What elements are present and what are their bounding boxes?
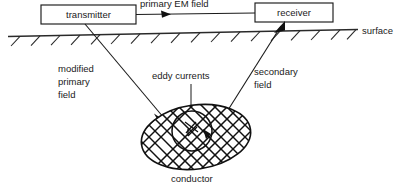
eddy-currents-label: eddy currents	[152, 70, 210, 81]
receiver-label: receiver	[277, 7, 311, 18]
conductor-label: conductor	[171, 173, 213, 184]
surface-hatching	[11, 30, 356, 46]
primary-em-field-arrowhead	[161, 11, 171, 18]
modified-primary-field-label-line3: field	[58, 89, 75, 100]
secondary-field-label-line1: secondary	[254, 66, 298, 77]
modified-primary-field-label-line2: primary	[58, 76, 90, 87]
receiver-node[interactable]: receiver	[255, 3, 333, 22]
modified-primary-field-label-line1: modified	[58, 63, 94, 74]
conductor-group: conductor	[120, 84, 334, 190]
primary-em-field-arrow-group: primary EM field	[136, 0, 255, 18]
surface-label: surface	[362, 25, 393, 36]
primary-em-field-line	[136, 13, 255, 15]
surface-line	[8, 30, 358, 37]
secondary-field-label-line2: field	[254, 79, 271, 90]
em-survey-diagram: surface transmitter receiver primary EM …	[0, 0, 395, 191]
diagram-canvas: surface transmitter receiver primary EM …	[0, 0, 395, 191]
transmitter-label: transmitter	[66, 9, 111, 20]
ground-surface-group: surface	[8, 25, 393, 47]
transmitter-node[interactable]: transmitter	[41, 5, 136, 24]
secondary-field-arrow-group: secondary field	[223, 21, 298, 118]
primary-em-field-label: primary EM field	[140, 0, 209, 9]
